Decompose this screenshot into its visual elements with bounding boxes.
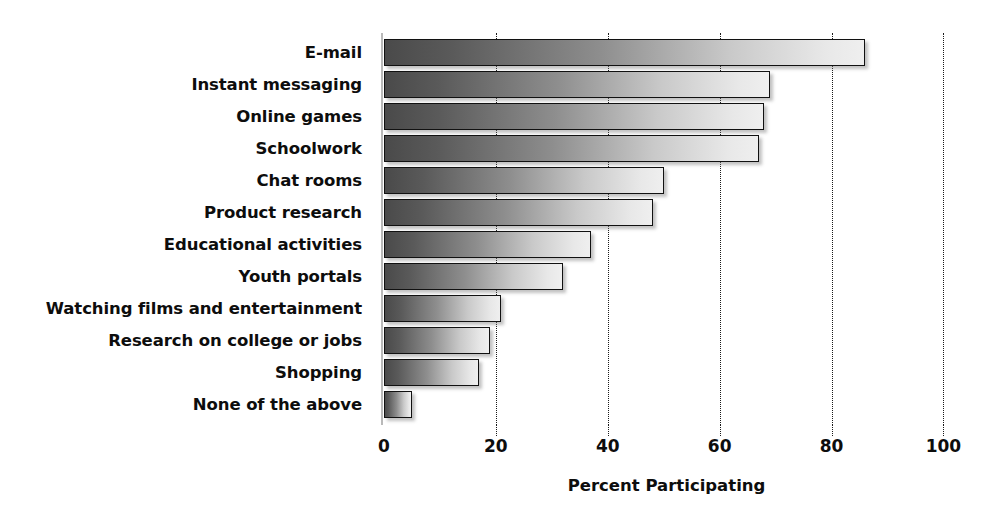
plot-area (384, 33, 949, 425)
bar (384, 103, 764, 130)
category-label: E-mail (0, 39, 372, 66)
category-label: Youth portals (0, 263, 372, 290)
bar (384, 295, 501, 322)
bar (384, 135, 759, 162)
x-tick-mark (720, 425, 721, 436)
bar-row (384, 263, 949, 290)
y-axis-line (381, 33, 383, 425)
bar-row (384, 359, 949, 386)
bar-row (384, 231, 949, 258)
x-tick-label: 100 (926, 436, 962, 456)
category-label: None of the above (0, 391, 372, 418)
category-label: Watching films and entertainment (0, 295, 372, 322)
x-tick-label: 0 (378, 436, 390, 456)
horizontal-bar-chart: E-mail Instant messaging Online games Sc… (0, 0, 993, 517)
bar-row (384, 391, 949, 418)
x-tick-label: 20 (484, 436, 508, 456)
bar (384, 263, 563, 290)
category-label: Research on college or jobs (0, 327, 372, 354)
bar (384, 231, 591, 258)
x-axis-title: Percent Participating (384, 476, 949, 495)
bar (384, 327, 490, 354)
bar (384, 359, 479, 386)
bar (384, 391, 412, 418)
x-tick-mark (832, 425, 833, 436)
bar-row (384, 199, 949, 226)
bar-series (384, 39, 949, 423)
x-axis-tick-labels: 020406080100 (384, 436, 949, 462)
category-label: Instant messaging (0, 71, 372, 98)
bar (384, 71, 770, 98)
x-tick-mark (496, 425, 497, 436)
x-tick-label: 60 (708, 436, 732, 456)
bar-row (384, 327, 949, 354)
bar (384, 167, 664, 194)
bar-row (384, 167, 949, 194)
x-tick-label: 40 (596, 436, 620, 456)
x-tick-mark (943, 425, 944, 436)
category-label: Shopping (0, 359, 372, 386)
bar (384, 199, 653, 226)
category-label: Educational activities (0, 231, 372, 258)
bar-row (384, 39, 949, 66)
bar-row (384, 135, 949, 162)
bar-row (384, 103, 949, 130)
bar (384, 39, 865, 66)
bar-row (384, 295, 949, 322)
x-tick-label: 80 (820, 436, 844, 456)
bar-row (384, 71, 949, 98)
category-label: Chat rooms (0, 167, 372, 194)
x-tick-mark (608, 425, 609, 436)
category-label: Online games (0, 103, 372, 130)
category-label: Schoolwork (0, 135, 372, 162)
category-label: Product research (0, 199, 372, 226)
category-axis-labels: E-mail Instant messaging Online games Sc… (0, 39, 372, 423)
